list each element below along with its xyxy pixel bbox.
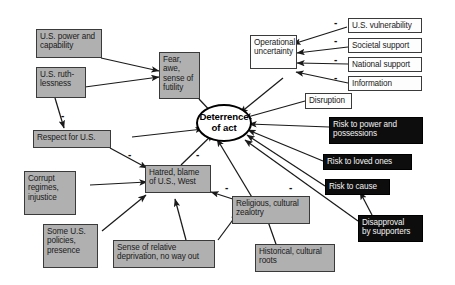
node-label-line1: Some U.S. <box>47 227 94 236</box>
edge-risk-power-to-deterrence <box>249 124 329 127</box>
node-label-line2: by supporters <box>362 227 419 236</box>
sign-information-to-opuncertainty: - <box>334 75 337 81</box>
node-label-line2: policies, <box>47 236 94 245</box>
node-us-vulnerability[interactable]: U.S. vulnerability <box>348 18 422 33</box>
node-label: Information <box>352 79 392 88</box>
node-label-line1: Disapproval <box>362 218 419 227</box>
node-label-line3: presence <box>47 246 94 255</box>
node-risk-to-loved-ones[interactable]: Risk to loved ones <box>323 154 412 170</box>
node-label-line2: uncertainty <box>254 47 293 56</box>
node-operational-uncertainty[interactable]: Operational uncertainty <box>250 35 297 69</box>
node-risk-to-power-and-possessions[interactable]: Risk to power and possessions <box>329 117 423 144</box>
node-label-line1: Historical, cultural <box>259 247 331 256</box>
node-label-line3: futility <box>163 83 196 92</box>
node-label-line1: Hatred, blame <box>149 168 207 177</box>
edge-national-to-opuncertainty <box>297 63 348 64</box>
edge-disruption-to-deterrence <box>244 101 305 118</box>
node-us-power-and-capability[interactable]: U.S. power and capability <box>36 29 102 58</box>
sign-zealotry-to-hatred: - <box>289 185 292 191</box>
sign-hatred-to-deterrence: - <box>196 152 199 158</box>
node-some-us-policies-presence[interactable]: Some U.S. policies, presence <box>43 224 98 268</box>
node-disapproval-by-supporters[interactable]: Disapproval by supporters <box>358 215 423 242</box>
sign-respect-to-hatred: - <box>128 152 131 158</box>
node-deterrence-of-act[interactable]: Deterrence of act <box>196 104 252 142</box>
node-label-line1: Fear, awe, <box>163 55 196 74</box>
node-label: Respect for U.S. <box>37 133 95 142</box>
node-sense-of-relative-deprivation[interactable]: Sense of relative deprivation, no way ou… <box>113 240 215 268</box>
sign-zealotry-to-deterrence: - <box>225 185 228 191</box>
edge-respect-to-deterrence <box>132 129 203 137</box>
node-label-line1: U.S. ruth- <box>40 70 82 79</box>
node-us-ruthlessness[interactable]: U.S. ruth- lessness <box>36 67 86 98</box>
edge-risk-loved-to-deterrence <box>248 130 323 161</box>
node-hatred-blame-of-us-west[interactable]: Hatred, blame of U.S., West <box>145 165 211 193</box>
node-label-line2: deprivation, no way out <box>117 252 211 261</box>
node-label-line1: Corrupt <box>28 174 72 183</box>
edge-vulnerability-to-opuncertainty <box>293 27 347 44</box>
node-respect-for-us[interactable]: Respect for U.S. <box>33 130 111 148</box>
node-historical-cultural-roots[interactable]: Historical, cultural roots <box>255 244 335 272</box>
sign-us-ruthlessness-to-respect: - <box>61 113 64 119</box>
node-label: U.S. vulnerability <box>352 21 412 30</box>
sign-vulnerability-to-opuncertainty: - <box>334 20 337 26</box>
node-label-line2: regimes, <box>28 183 72 192</box>
node-label: U.S. power and capability <box>40 32 95 50</box>
node-label-line1: Sense of relative <box>117 243 211 252</box>
node-label-line1: Operational <box>254 38 293 47</box>
node-label-line2: lessness <box>40 79 82 88</box>
node-label: National support <box>352 60 410 69</box>
node-societal-support[interactable]: Societal support <box>348 38 422 53</box>
node-religious-cultural-zealotry[interactable]: Religious, cultural zealotry <box>232 196 310 224</box>
node-corrupt-regimes-injustice[interactable]: Corrupt regimes, injustice <box>24 171 76 215</box>
center-label-line2: of act <box>199 123 248 134</box>
edge-societal-to-opuncertainty <box>297 47 348 53</box>
edge-risk-cause-to-deterrence <box>247 135 325 186</box>
node-label: Risk to cause <box>329 182 377 191</box>
edge-deprivation-to-hatred <box>175 199 186 240</box>
node-label-line1: Religious, cultural <box>236 199 306 208</box>
node-label-line1: Risk to power and <box>333 120 419 129</box>
node-disruption[interactable]: Disruption <box>305 93 352 109</box>
sign-societal-to-opuncertainty: - <box>334 38 337 44</box>
node-label: Disruption <box>309 96 345 105</box>
node-fear-awe-futility[interactable]: Fear, awe, sense of futility <box>159 52 200 99</box>
edge-policies-to-hatred <box>102 195 146 231</box>
node-information[interactable]: Information <box>348 76 422 91</box>
edge-information-to-opuncertainty <box>296 72 348 83</box>
sign-national-to-opuncertainty: - <box>334 57 337 63</box>
node-label: Risk to loved ones <box>327 157 392 166</box>
edge-opuncertainty-to-deterrence <box>240 78 283 113</box>
diagram-canvas: U.S. power and capability U.S. ruth- les… <box>0 0 455 285</box>
node-label-line2: of U.S., West <box>149 177 207 186</box>
edge-us-ruthlessness-to-fear <box>85 77 159 87</box>
node-label-line2: sense of <box>163 74 196 83</box>
edge-disapproval-to-risk-cause <box>360 192 372 215</box>
node-national-support[interactable]: National support <box>348 57 422 72</box>
node-label-line2: possessions <box>333 129 419 138</box>
node-label-line3: injustice <box>28 193 72 202</box>
node-label-line2: roots <box>259 256 331 265</box>
edge-us-power-to-fear <box>101 58 159 71</box>
node-label: Societal support <box>352 41 409 50</box>
node-label-line2: zealotry <box>236 208 306 217</box>
edge-zealotry-to-deterrence <box>217 139 253 199</box>
edge-corrupt-to-hatred <box>90 182 147 185</box>
node-risk-to-cause[interactable]: Risk to cause <box>325 179 390 195</box>
